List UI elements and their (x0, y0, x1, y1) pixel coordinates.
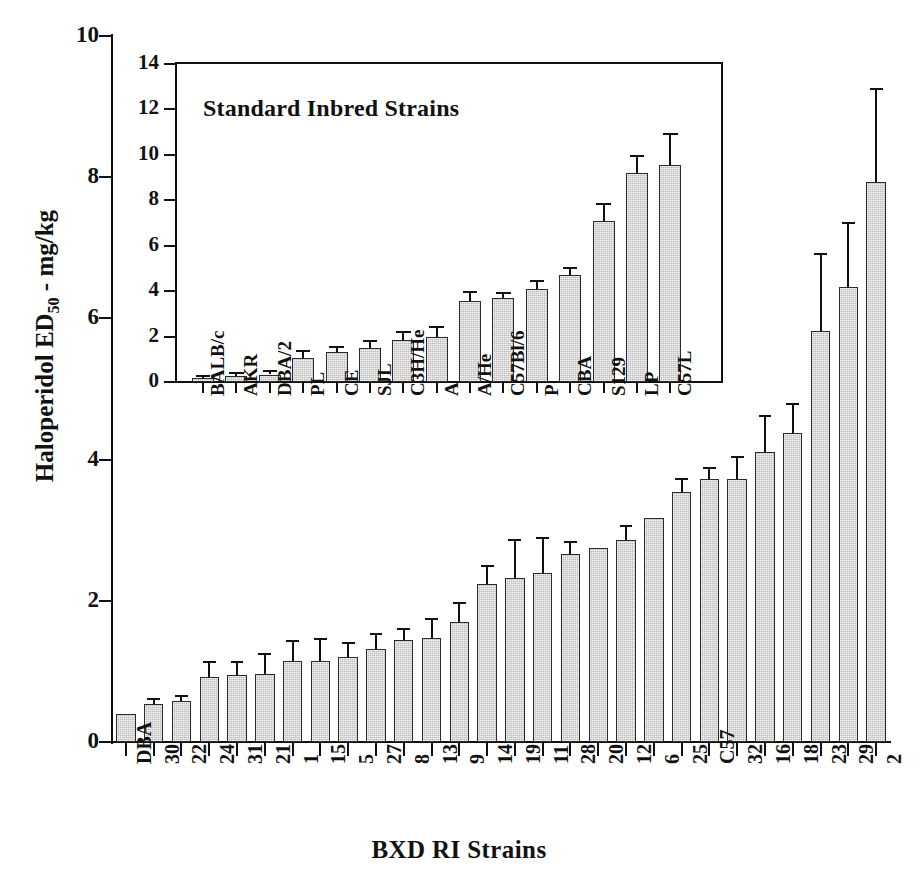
x-axis-title: BXD RI Strains (0, 836, 918, 864)
y-axis-tick (99, 741, 112, 743)
error-bar-stem (625, 525, 627, 541)
bar (839, 287, 858, 742)
inset-x-axis-tick (202, 382, 204, 393)
bar (338, 657, 357, 742)
error-bar-cap (286, 640, 299, 642)
inset-x-axis-tick-label: PL (308, 372, 327, 396)
inset-x-axis-tick (436, 382, 438, 393)
bar (422, 638, 441, 742)
inset-y-axis-tick (164, 108, 177, 110)
error-bar-cap (370, 633, 383, 635)
error-bar-cap (814, 253, 827, 255)
inset-x-axis-tick-label: C3H/He (408, 330, 427, 397)
bar (426, 337, 448, 382)
y-axis-tick-label: 8 (55, 164, 99, 187)
y-axis-line (111, 34, 113, 744)
x-axis-tick-label: 12 (634, 744, 654, 764)
inset-x-axis-tick (536, 382, 538, 393)
inset-x-axis-tick-label: AKR (241, 354, 260, 396)
inset-x-axis-tick (269, 382, 271, 393)
error-bar-cap (258, 653, 271, 655)
y-axis-tick (99, 459, 112, 461)
inset-x-axis-tick-label: P (542, 384, 561, 396)
x-axis-tick-label: 28 (578, 744, 598, 764)
bar (533, 573, 552, 742)
error-bar-stem (736, 456, 738, 479)
error-bar-stem (792, 403, 794, 433)
error-bar-stem (764, 415, 766, 452)
error-bar-cap (481, 565, 494, 567)
error-bar-cap (397, 628, 410, 630)
inset-x-axis-tick-label: C57Bl/6 (508, 331, 527, 396)
error-bar-stem (431, 618, 433, 638)
error-bar-stem (458, 602, 460, 622)
inset-x-axis-tick-label: C57L (675, 351, 694, 396)
bar (505, 578, 524, 742)
x-axis-tick-label: 27 (384, 744, 404, 764)
bar (283, 661, 302, 742)
y-axis-tick-label: 6 (55, 305, 99, 328)
error-bar-stem (236, 661, 238, 675)
inset-chart: Standard Inbred Strains 02468101214 (175, 62, 723, 383)
bar (589, 548, 608, 742)
inset-y-axis-tick (164, 336, 177, 338)
error-bar-stem (514, 539, 516, 578)
inset-y-axis-tick-label: 10 (125, 143, 159, 164)
x-axis-tick-label: 18 (801, 744, 821, 764)
error-bar-stem (375, 633, 377, 649)
error-bar-cap (463, 291, 478, 293)
error-bar-cap (147, 698, 160, 700)
inset-y-axis-tick (164, 154, 177, 156)
inset-x-axis-tick (402, 382, 404, 393)
inset-y-axis-tick (164, 381, 177, 383)
x-axis-tick-label: 24 (217, 744, 237, 764)
y-axis-tick-label: 2 (55, 588, 99, 611)
inset-title: Standard Inbred Strains (203, 95, 459, 122)
error-bar-cap (231, 661, 244, 663)
bar (755, 452, 774, 742)
error-bar-stem (319, 638, 321, 661)
error-bar-cap (342, 642, 355, 644)
x-axis-tick-label: 19 (523, 744, 543, 764)
error-bar-cap (453, 602, 466, 604)
bar (366, 649, 385, 742)
x-axis-tick-label: 22 (189, 744, 209, 764)
x-axis-tick-label: 31 (245, 744, 265, 764)
error-bar-cap (630, 155, 645, 157)
error-bar-cap (363, 340, 378, 342)
error-bar-cap (496, 292, 511, 294)
bar (200, 677, 219, 742)
y-axis-title-units: - mg/kg (31, 210, 58, 298)
inset-x-axis-tick-label: CE (342, 370, 361, 396)
x-axis-tick-label: 21 (273, 744, 293, 764)
bar (783, 433, 802, 742)
error-bar-stem (292, 640, 294, 661)
inset-y-axis-tick (164, 245, 177, 247)
error-bar-cap (703, 467, 716, 469)
error-bar-cap (203, 661, 216, 663)
x-axis-tick-label: DBA (134, 722, 154, 764)
error-bar-stem (669, 133, 671, 165)
inset-y-axis-tick-label: 0 (125, 370, 159, 391)
inset-y-axis-tick (164, 63, 177, 65)
bar (311, 661, 330, 742)
error-bar-cap (508, 539, 521, 541)
x-axis-tick-label: 20 (606, 744, 626, 764)
error-bar-stem (681, 478, 683, 492)
x-axis-tick-label: 9 (467, 754, 487, 764)
inset-x-axis-tick (603, 382, 605, 393)
error-bar-cap (675, 478, 688, 480)
error-bar-cap (314, 638, 327, 640)
inset-x-axis-tick (235, 382, 237, 393)
y-axis-title-text: Haloperidol ED (31, 313, 58, 482)
x-axis-tick-label: 8 (412, 754, 432, 764)
inset-x-axis-tick (336, 382, 338, 393)
inset-y-axis-tick-label: 2 (125, 325, 159, 346)
error-bar-cap (296, 350, 311, 352)
y-axis-tick-label: 10 (55, 23, 99, 46)
bar (227, 675, 246, 742)
x-axis-tick-label: 25 (690, 744, 710, 764)
error-bar-cap (175, 695, 188, 697)
error-bar-cap (429, 326, 444, 328)
error-bar-stem (264, 653, 266, 673)
